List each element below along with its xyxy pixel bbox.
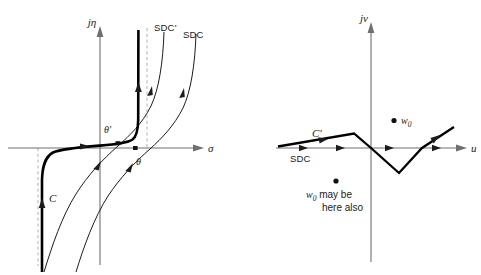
x-axis-arrowhead-w [456,145,467,152]
sdc-arrow-upper [179,88,185,98]
sdc-arrow-lower [125,163,133,173]
y-axis-label-sigma-plane: jη [86,16,97,28]
sdc-prime-label: SDC' [154,22,177,33]
saddle-point-theta-prime [116,141,121,145]
w0-upper-label-subscript: 0 [408,120,412,129]
theta-label: θ [136,156,141,167]
sigma-plane-panel: jη σ SDC' SDC θ' θ C [0,0,240,275]
x-axis-label-sigma-plane: σ [208,142,214,154]
u-axis-flow-arrow-2 [336,145,345,151]
w0-upper-dot [391,118,396,123]
w-plane-panel: jv u C' SDC w0 w0 may be here also [240,0,481,275]
contour-c-prime-label: C' [312,127,322,139]
x-axis-label-w-plane: u [471,142,477,154]
w0-lower-dot [333,178,338,183]
contour-c-label: C [49,192,57,204]
w0-note-line-1: w0 may be [306,189,352,203]
sdc-label: SDC [183,29,204,40]
y-axis-label-w-plane: jv [358,12,368,24]
contour-c-arrow-upper [135,82,142,92]
theta-prime-label: θ' [104,124,112,135]
contour-c-arrow-lower [39,198,46,208]
contour-c-prime-curve [278,127,454,173]
u-axis-flow-arrow-1 [299,145,308,151]
sdc-curve [76,34,196,272]
w0-note-text-1: may be [316,189,352,200]
w0-upper-label: w0 [401,115,412,129]
sdc-prime-arrow-upper [147,86,153,96]
w0-note-line-2: here also [322,202,364,213]
y-axis-arrowhead-w [368,22,375,33]
figure-root: jη σ SDC' SDC θ' θ C jv u C' SDC w0 [0,0,481,275]
u-axis-flow-arrow-3 [385,145,394,151]
y-axis-arrowhead [97,26,104,37]
contour-c-arrow-middle [80,143,90,149]
sdc-label-w-plane: SDC [290,153,311,164]
saddle-point-theta [133,146,138,150]
u-axis-flow-arrow-4 [432,145,441,151]
x-axis-arrowhead [193,145,204,152]
